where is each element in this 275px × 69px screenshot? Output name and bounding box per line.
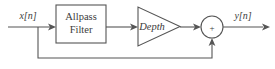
allpass-filter-block[interactable]: Allpass Filter [56,5,106,43]
output-signal-path [223,24,270,31]
figure-canvas: x[n] Allpass Filter Depth + [0,0,275,69]
gain-to-summer-path [180,24,201,31]
allpass-filter-label-line2: Filter [70,24,93,35]
depth-gain-block[interactable]: Depth [138,7,180,46]
summing-junction[interactable]: + [201,16,223,38]
input-label: x[n] [18,10,36,21]
input-signal-path [8,24,56,31]
output-label: y[n] [233,10,251,21]
summing-junction-plus-sign: + [209,23,214,33]
depth-gain-label: Depth [138,21,165,32]
block-diagram: x[n] Allpass Filter Depth + [0,0,275,69]
block-to-gain-path [106,24,138,31]
allpass-filter-label-line1: Allpass [65,11,97,22]
output-arrow-icon [262,24,270,31]
